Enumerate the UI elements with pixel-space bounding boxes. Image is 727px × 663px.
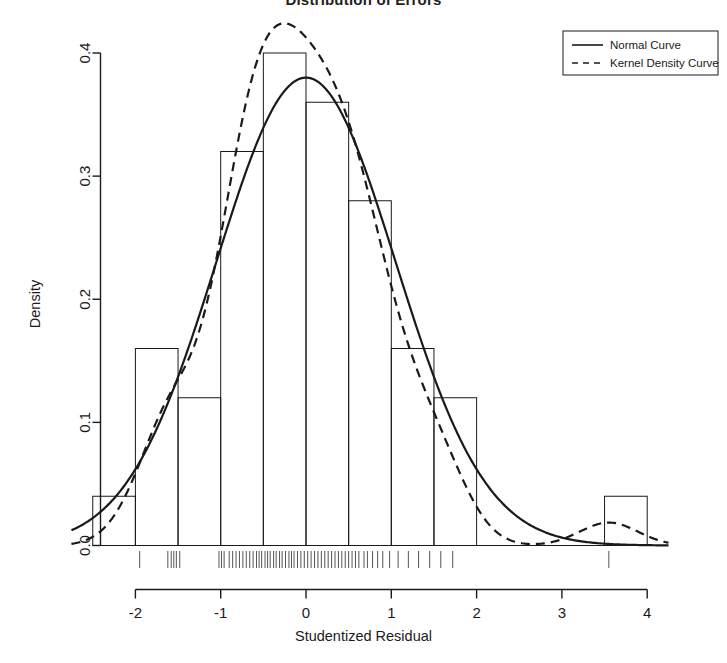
x-axis-tick-label: 1	[387, 604, 395, 621]
histogram-bar	[135, 349, 178, 546]
histogram-bar	[263, 53, 306, 546]
normal-curve-path	[71, 78, 668, 546]
y-axis-label: Density	[27, 244, 43, 364]
chart-canvas: Distribution of Errors 0.00.10.20.30.4 -…	[0, 0, 727, 663]
y-axis-tick-label: 0.2	[76, 289, 93, 310]
x-axis-tick-label: 0	[302, 604, 310, 621]
kernel-density-curve-path	[71, 23, 668, 544]
histogram-bar	[306, 102, 349, 545]
y-axis-tick-label: 0.1	[76, 412, 93, 433]
y-axis: 0.00.10.20.30.4	[76, 43, 101, 556]
legend-box: Normal CurveKernel Density Curve	[563, 31, 719, 75]
legend-entry-label: Normal Curve	[610, 39, 681, 51]
x-axis-tick-label: -1	[214, 604, 227, 621]
kernel-density-line	[71, 23, 668, 544]
x-axis-label: Studentized Residual	[0, 628, 727, 644]
histogram-bars	[93, 53, 647, 546]
x-axis-tick-label: 3	[558, 604, 566, 621]
x-axis: -2-101234	[129, 590, 652, 621]
plot-area: 0.00.10.20.30.4 -2-101234 Normal CurveKe…	[0, 0, 727, 663]
rug-plot	[140, 551, 609, 568]
legend-entry-label: Kernel Density Curve	[610, 57, 719, 69]
histogram-bar	[434, 398, 477, 546]
histogram-bar	[391, 349, 434, 546]
histogram-bar	[221, 152, 264, 546]
histogram-bar	[349, 201, 392, 546]
y-axis-tick-label: 0.3	[76, 166, 93, 187]
x-axis-tick-label: -2	[129, 604, 142, 621]
histogram-bar	[178, 398, 221, 546]
x-axis-tick-label: 2	[472, 604, 480, 621]
histogram-bar	[93, 496, 136, 545]
normal-curve-line	[71, 78, 668, 546]
x-axis-tick-label: 4	[643, 604, 651, 621]
y-axis-tick-label: 0.0	[76, 535, 93, 556]
y-axis-tick-label: 0.4	[76, 43, 93, 64]
histogram-bar	[605, 496, 648, 545]
